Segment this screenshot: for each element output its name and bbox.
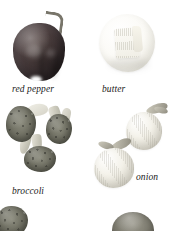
broccoli-image — [6, 104, 84, 178]
pepper-highlight — [46, 49, 55, 57]
broccoli-floret-head — [46, 114, 72, 144]
onion-bulb — [126, 112, 162, 150]
caption-onion: onion — [136, 172, 158, 183]
butter-block-side — [132, 26, 143, 52]
pepper-base-notch — [30, 76, 42, 83]
caption-butter: butter — [102, 84, 125, 95]
cropped-produce-head — [0, 206, 28, 231]
bottom-left-cropped-image — [0, 206, 30, 231]
red-pepper-image — [8, 10, 74, 82]
butter-image — [96, 10, 160, 78]
butter-dish — [99, 14, 155, 72]
onion-image — [92, 104, 172, 188]
onion-bulb — [94, 148, 134, 188]
pepper-highlight — [26, 45, 42, 58]
broccoli-floret-head — [24, 146, 56, 172]
caption-red-pepper: red pepper — [12, 84, 54, 95]
bottom-right-cropped-image — [112, 212, 154, 231]
caption-broccoli: broccoli — [12, 186, 44, 197]
butter-shadow — [109, 58, 149, 70]
food-figure-sheet: red pepper butter broccoli — [0, 0, 176, 231]
pepper-body — [13, 23, 65, 81]
pepper-lobe-crease — [52, 53, 60, 79]
